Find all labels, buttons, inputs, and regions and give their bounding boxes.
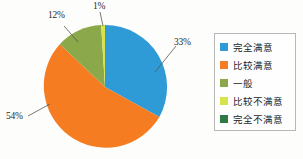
legend-label: 比较不满意 — [233, 94, 283, 108]
legend-item-一般[interactable]: 一般 — [220, 74, 292, 92]
slice-label-12: 12% — [48, 10, 65, 20]
legend-swatch-icon — [220, 115, 228, 123]
leader-line-54 — [28, 104, 50, 116]
legend-swatch-icon — [220, 61, 228, 69]
slice-label-1: 1% — [93, 1, 105, 11]
legend-swatch-icon — [220, 43, 228, 51]
legend-swatch-icon — [220, 97, 228, 105]
legend-item-完全不满意[interactable]: 完全不满意 — [220, 110, 292, 128]
pie-chart-screenshot: 33% 54% 12% 1% 完全满意 比较满意 一般 比较不满意 完全不满意 — [0, 0, 303, 159]
leader-line-1 — [100, 12, 103, 26]
legend-label: 完全满意 — [233, 40, 273, 54]
legend-label: 比较满意 — [233, 58, 273, 72]
legend-label: 完全不满意 — [233, 112, 283, 126]
chart-legend: 完全满意 比较满意 一般 比较不满意 完全不满意 — [214, 33, 296, 131]
legend-item-比较满意[interactable]: 比较满意 — [220, 56, 292, 74]
legend-label: 一般 — [233, 76, 253, 90]
slice-label-54: 54% — [6, 111, 23, 121]
legend-item-比较不满意[interactable]: 比较不满意 — [220, 92, 292, 110]
slice-label-33: 33% — [174, 37, 191, 47]
legend-item-完全满意[interactable]: 完全满意 — [220, 38, 292, 56]
legend-swatch-icon — [220, 79, 228, 87]
